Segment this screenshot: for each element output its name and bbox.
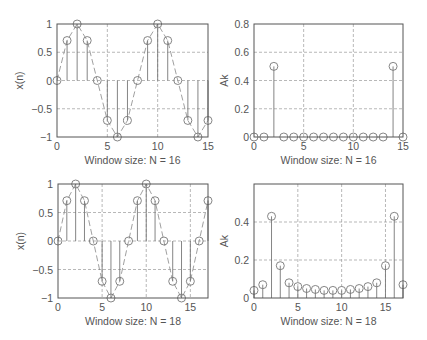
y-axis-label: Ak (218, 234, 230, 247)
y-tick-label: 0.5 (38, 207, 53, 219)
y-tick-label: 0.4 (234, 216, 249, 228)
y-tick-label: 1 (46, 18, 52, 30)
x-tick-label: 5 (99, 301, 105, 313)
y-tick-label: −0.5 (32, 264, 53, 276)
x-tick-label: 5 (104, 140, 110, 152)
x-tick-label: 15 (380, 301, 392, 313)
y-tick-label: 1 (47, 178, 53, 190)
y-tick-label: 0 (47, 235, 53, 247)
subplot-bottom-right: 05101500.20.4Window size: N = 18Ak (218, 184, 407, 327)
x-tick-label: 0 (251, 140, 257, 152)
figure: 051015−1−0.500.51Window size: N = 16x(n)… (0, 0, 427, 340)
x-tick-label: 10 (347, 140, 359, 152)
subplot-top-left: 051015−1−0.500.51Window size: N = 16x(n) (13, 18, 214, 166)
x-tick-label: 10 (140, 301, 152, 313)
x-tick-label: 5 (295, 301, 301, 313)
x-tick-label: 15 (202, 140, 214, 152)
y-tick-label: −1 (41, 292, 53, 304)
x-tick-label: 10 (152, 140, 164, 152)
y-tick-label: 0.8 (234, 18, 249, 30)
subplot-bottom-left: 051015−1−0.500.51Window size: N = 18x(n) (14, 178, 212, 327)
x-axis-label: Window size: N = 16 (281, 154, 377, 166)
x-axis-label: Window size: N = 18 (85, 315, 181, 327)
y-tick-label: 0 (243, 131, 249, 143)
x-tick-label: 0 (55, 301, 61, 313)
y-axis-label: Ak (218, 74, 230, 87)
y-tick-label: 0.2 (234, 254, 249, 266)
x-tick-label: 15 (185, 301, 197, 313)
y-tick-label: 0 (243, 292, 249, 304)
y-tick-label: 0 (46, 75, 52, 87)
x-tick-label: 5 (301, 140, 307, 152)
x-axis-label: Window size: N = 18 (281, 315, 377, 327)
y-axis-label: x(n) (13, 71, 25, 89)
y-tick-label: −1 (40, 131, 52, 143)
y-tick-label: 0.2 (234, 103, 249, 115)
x-tick-label: 10 (336, 301, 348, 313)
y-axis-label: x(n) (14, 232, 26, 250)
x-tick-label: 0 (251, 301, 257, 313)
y-tick-label: −0.5 (31, 103, 52, 115)
subplot-top-right: 05101500.20.40.60.8Window size: N = 16Ak (218, 18, 409, 166)
x-tick-label: 0 (54, 140, 60, 152)
y-tick-label: 0.5 (37, 46, 52, 58)
y-tick-label: 0.6 (234, 46, 249, 58)
x-tick-label: 15 (397, 140, 409, 152)
x-axis-label: Window size: N = 16 (85, 154, 181, 166)
y-tick-label: 0.4 (234, 75, 249, 87)
